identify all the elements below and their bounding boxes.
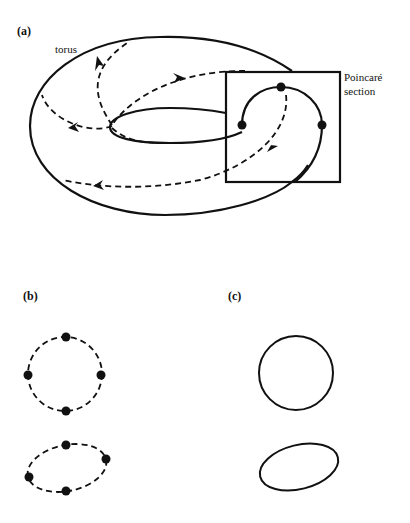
trajectory-dashed xyxy=(42,41,286,187)
panel-c: (c) xyxy=(228,289,343,498)
panel-c-label: (c) xyxy=(228,289,241,303)
panel-b-label: (b) xyxy=(23,289,38,303)
poincare-section-diagram: (a) torus Poincaré section xyxy=(0,0,410,523)
section-label-line1: Poincaré xyxy=(344,71,383,83)
periodic-points-circle xyxy=(24,333,106,416)
arrow-icon xyxy=(68,122,79,132)
panel-b: (b) xyxy=(23,289,111,499)
periodic-orbit-circle-dashed xyxy=(28,337,102,411)
torus-cross-section xyxy=(242,87,322,182)
quasiperiodic-ellipse xyxy=(255,436,343,498)
panel-a: (a) torus Poincaré section xyxy=(17,24,383,215)
arrow-icon xyxy=(173,73,185,83)
section-label-line2: section xyxy=(344,85,376,97)
torus-outer-outline xyxy=(30,37,292,215)
torus-label: torus xyxy=(55,43,77,55)
arrow-icon xyxy=(93,180,104,190)
quasiperiodic-circle xyxy=(259,336,333,410)
intersection-points xyxy=(238,83,327,130)
panel-a-label: (a) xyxy=(17,24,31,38)
